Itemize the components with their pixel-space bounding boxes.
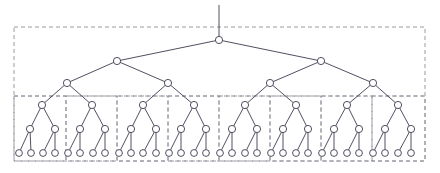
tree-leaf-node-5-6 bbox=[90, 150, 97, 157]
tree-leaf-node-5-26 bbox=[344, 150, 351, 157]
tree-leaf-node-5-31 bbox=[408, 150, 415, 157]
tree-leaf-node-5-30 bbox=[395, 150, 402, 157]
tree-leaf-node-5-14 bbox=[191, 150, 198, 157]
tree-leaf-node-5-12 bbox=[166, 150, 173, 157]
tree-leaf-node-5-13 bbox=[178, 150, 185, 157]
tree-node-4-11 bbox=[304, 125, 311, 132]
tree-node-4-13 bbox=[355, 125, 362, 132]
tree-leaf-node-5-3 bbox=[52, 150, 59, 157]
tree-node-3-0 bbox=[38, 101, 45, 108]
tree-node-4-12 bbox=[330, 125, 337, 132]
tree-leaf-node-5-15 bbox=[203, 150, 210, 157]
tree-node-4-6 bbox=[177, 125, 184, 132]
tree-node-4-7 bbox=[202, 125, 209, 132]
tree-leaf-node-5-4 bbox=[65, 150, 72, 157]
tree-node-3-2 bbox=[139, 101, 146, 108]
tree-node-1-0 bbox=[113, 57, 120, 64]
tree-node-4-1 bbox=[51, 125, 58, 132]
tree-leaf-node-5-20 bbox=[268, 150, 275, 157]
tree-node-4-2 bbox=[76, 125, 83, 132]
tree-leaf-node-5-24 bbox=[319, 150, 326, 157]
tree-leaf-node-5-10 bbox=[140, 150, 147, 157]
tree-node-4-15 bbox=[407, 125, 414, 132]
tree-leaf-node-5-18 bbox=[242, 150, 249, 157]
tree-node-3-7 bbox=[394, 101, 401, 108]
tree-leaf-node-5-9 bbox=[128, 150, 135, 157]
tree-leaf-node-5-7 bbox=[102, 150, 109, 157]
tree-leaf-node-5-2 bbox=[40, 150, 47, 157]
tree-node-4-14 bbox=[381, 125, 388, 132]
tree-node-3-6 bbox=[343, 101, 350, 108]
tree-node-4-0 bbox=[26, 125, 33, 132]
tree-leaf-node-5-17 bbox=[229, 150, 236, 157]
tree-node-3-3 bbox=[190, 101, 197, 108]
tree-node-4-9 bbox=[253, 125, 260, 132]
tree-node-3-4 bbox=[241, 101, 248, 108]
tree-leaf-node-5-28 bbox=[370, 150, 377, 157]
tree-node-4-10 bbox=[279, 125, 286, 132]
tree-diagram bbox=[0, 0, 440, 173]
tree-node-0-0 bbox=[215, 36, 222, 43]
tree-node-4-5 bbox=[152, 125, 159, 132]
tree-leaf-node-5-8 bbox=[116, 150, 123, 157]
tree-node-1-1 bbox=[317, 57, 324, 64]
tree-node-2-0 bbox=[63, 79, 70, 86]
tree-leaf-node-5-23 bbox=[305, 150, 312, 157]
tree-node-4-3 bbox=[101, 125, 108, 132]
tree-leaf-node-5-29 bbox=[382, 150, 389, 157]
tree-node-3-5 bbox=[292, 101, 299, 108]
tree-node-4-4 bbox=[127, 125, 134, 132]
tree-leaf-node-5-25 bbox=[331, 150, 338, 157]
figure-root bbox=[0, 0, 440, 173]
tree-leaf-node-5-5 bbox=[77, 150, 84, 157]
tree-leaf-node-5-11 bbox=[153, 150, 160, 157]
tree-leaf-node-5-27 bbox=[356, 150, 363, 157]
tree-leaf-node-5-0 bbox=[16, 150, 23, 157]
tree-node-2-2 bbox=[266, 79, 273, 86]
tree-node-3-1 bbox=[88, 101, 95, 108]
tree-leaf-node-5-1 bbox=[28, 150, 35, 157]
tree-node-2-3 bbox=[369, 79, 376, 86]
tree-leaf-node-5-21 bbox=[280, 150, 287, 157]
tree-leaf-node-5-16 bbox=[217, 150, 224, 157]
tree-leaf-node-5-19 bbox=[254, 150, 261, 157]
tree-node-2-1 bbox=[164, 79, 171, 86]
tree-leaf-node-5-22 bbox=[293, 150, 300, 157]
tree-node-4-8 bbox=[228, 125, 235, 132]
